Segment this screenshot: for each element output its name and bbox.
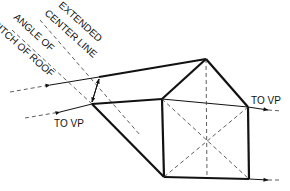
vanishing-line-lower-right [249,179,268,180]
front-wall-center-line [206,59,207,178]
gable-right-edge [206,59,248,107]
pitch-dimension-arrow-up [92,79,99,102]
vanishing-line-lower-left-solid [60,104,92,112]
vanishing-line-upper-left [10,85,50,92]
roof-perspective-diagram: EXTENDED CENTER LINE ANGLE OF PITCH OF R… [0,0,290,191]
front-wall-left [162,99,164,177]
front-wall-top [162,99,248,107]
front-wall-bottom [164,177,249,179]
roof-eave [92,99,162,104]
vanishing-line-upper-left-solid [50,77,99,85]
vanishing-line-upper-right [248,107,268,110]
vanishing-line-upper-right-dash [268,110,282,111]
front-wall-diagonal-1 [162,99,249,179]
label-to-vp-right: TO VP [251,95,281,106]
side-wall-bottom-edge [92,104,164,177]
label-to-vp-left: TO VP [54,118,84,129]
front-wall-right [248,107,249,179]
